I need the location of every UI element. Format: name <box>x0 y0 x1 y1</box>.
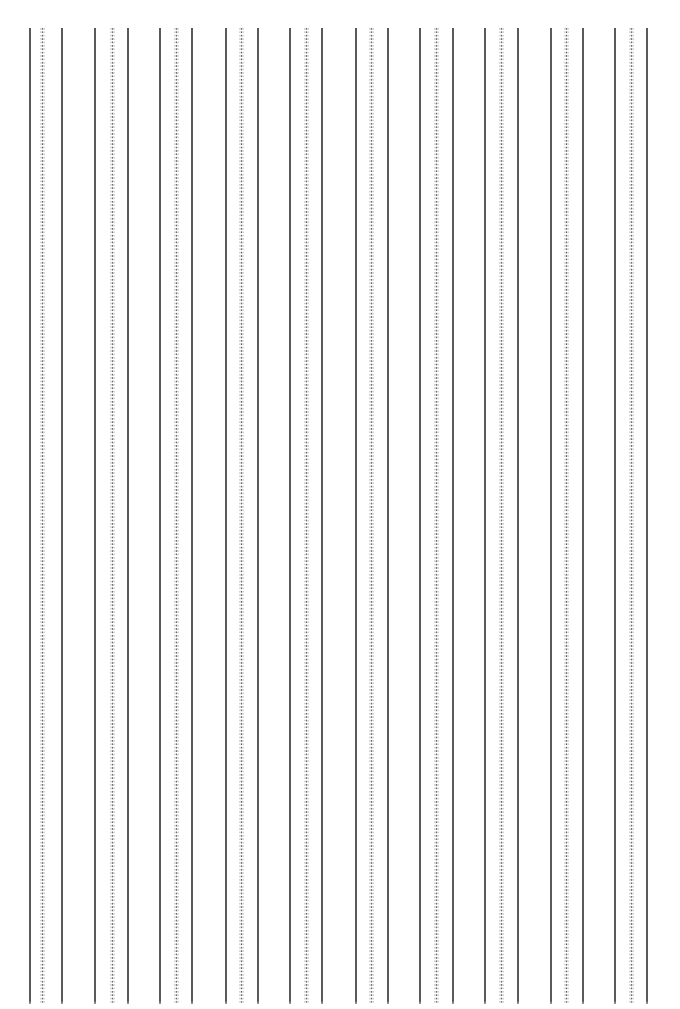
solid-rule-line <box>191 28 193 1004</box>
solid-rule-line <box>289 28 291 1004</box>
dotted-rule-line <box>241 28 242 1004</box>
dotted-rule-line <box>112 28 113 1004</box>
solid-rule-line <box>614 28 616 1004</box>
dotted-rule-line <box>306 28 307 1004</box>
solid-rule-line <box>61 28 63 1004</box>
solid-rule-line <box>355 28 357 1004</box>
solid-rule-line <box>225 28 227 1004</box>
solid-rule-line <box>419 28 421 1004</box>
solid-rule-line <box>29 28 31 1004</box>
solid-rule-line <box>550 28 552 1004</box>
top-fade-overlay <box>0 0 680 14</box>
dotted-rule-line <box>371 28 372 1004</box>
solid-rule-line <box>94 28 96 1004</box>
solid-rule-line <box>484 28 486 1004</box>
dotted-rule-line <box>631 28 632 1004</box>
solid-rule-line <box>321 28 323 1004</box>
solid-rule-line <box>646 28 648 1004</box>
solid-rule-line <box>452 28 454 1004</box>
dotted-rule-line <box>501 28 502 1004</box>
dotted-rule-line <box>566 28 567 1004</box>
dotted-rule-line <box>42 28 43 1004</box>
solid-rule-line <box>127 28 129 1004</box>
rule-pattern-canvas <box>0 0 680 1009</box>
solid-rule-line <box>159 28 161 1004</box>
solid-rule-line <box>517 28 519 1004</box>
solid-rule-line <box>257 28 259 1004</box>
solid-rule-line <box>387 28 389 1004</box>
bottom-fade-overlay <box>0 1001 680 1009</box>
dotted-rule-line <box>176 28 177 1004</box>
dotted-rule-line <box>436 28 437 1004</box>
solid-rule-line <box>582 28 584 1004</box>
